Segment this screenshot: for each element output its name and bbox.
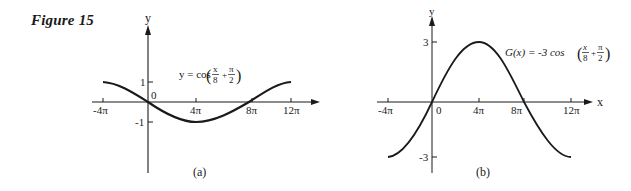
svg-text:): ) xyxy=(236,67,241,85)
svg-text:G(x) = -3 cos: G(x) = -3 cos xyxy=(505,46,565,59)
svg-text:8: 8 xyxy=(213,75,218,85)
tick-label-y1-a: 1 xyxy=(140,76,146,88)
y-axis-label-a: y xyxy=(145,11,151,25)
equation-b: G(x) = -3 cos ( x 8 + π 2 ) xyxy=(505,42,610,63)
y-axis-arrow-icon xyxy=(429,16,435,26)
panel-caption-a: (a) xyxy=(193,165,206,179)
svg-text:π: π xyxy=(229,64,234,74)
tick-label-12pi-a: 12π xyxy=(283,104,300,116)
tick-label-y3-b: 3 xyxy=(423,36,429,48)
panel-b: x y 0 -4π 4π 8π 12π 3 -3 G(x) = -3 cos (… xyxy=(377,5,610,179)
x-axis-arrow-icon xyxy=(311,99,320,105)
x-axis-arrow-icon xyxy=(584,99,593,105)
svg-text:(: ( xyxy=(577,45,582,63)
svg-text:+: + xyxy=(591,48,596,58)
tick-label-8pi-b: 8π xyxy=(511,104,523,116)
tick-label-neg4pi-b: -4π xyxy=(378,104,393,116)
tick-label-yneg1-a: -1 xyxy=(135,116,144,128)
ticks-b xyxy=(388,42,571,157)
svg-text:): ) xyxy=(605,45,610,63)
svg-text:8: 8 xyxy=(583,53,588,63)
svg-text:2: 2 xyxy=(598,53,603,63)
figure-canvas: y 0 -4π 4π 8π 12π 1 -1 y = cos ( x 8 + π… xyxy=(0,0,631,191)
panel-a: y 0 -4π 4π 8π 12π 1 -1 y = cos ( x 8 + π… xyxy=(92,11,320,179)
origin-label-a: 0 xyxy=(151,89,157,101)
svg-text:2: 2 xyxy=(229,75,234,85)
y-axis-label-b: y xyxy=(429,5,435,17)
tick-label-4pi-b: 4π xyxy=(473,104,485,116)
tick-label-8pi-a: 8π xyxy=(246,104,258,116)
svg-text:+: + xyxy=(222,70,227,80)
svg-text:x: x xyxy=(582,42,587,52)
panel-caption-b: (b) xyxy=(476,165,490,179)
svg-text:π: π xyxy=(598,42,603,52)
y-axis-arrow-icon xyxy=(145,25,151,35)
equation-a: y = cos ( x 8 + π 2 ) xyxy=(179,64,241,85)
tick-label-12pi-b: 12π xyxy=(563,104,580,116)
tick-label-yneg3-b: -3 xyxy=(419,151,429,163)
tick-label-neg4pi-a: -4π xyxy=(93,104,108,116)
svg-text:(: ( xyxy=(206,67,211,85)
tick-label-4pi-a: 4π xyxy=(190,104,202,116)
svg-text:x: x xyxy=(213,64,218,74)
x-axis-label-b: x xyxy=(597,95,603,109)
origin-label-b: 0 xyxy=(436,104,442,116)
